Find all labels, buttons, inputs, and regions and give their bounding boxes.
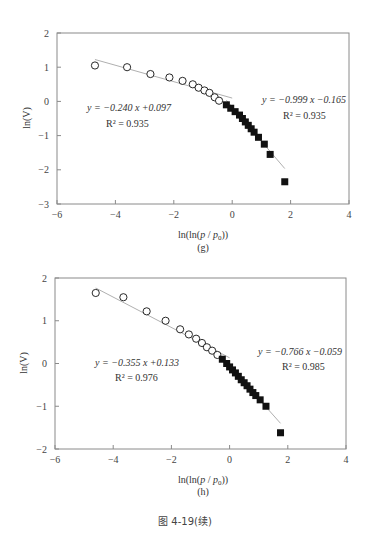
figure-caption: 图 4-19(续) <box>158 515 212 527</box>
open-circle-marker <box>215 97 222 104</box>
x-tick-label: −6 <box>52 209 63 220</box>
open-circle-marker <box>147 70 154 77</box>
open-circle-marker <box>123 64 130 71</box>
y-axis-title-h: ln(V) <box>18 352 30 374</box>
filled-square-marker <box>267 151 274 158</box>
y-tick-label: −3 <box>38 199 49 210</box>
x-tick-label: 2 <box>285 454 290 465</box>
panel-label-g: (g) <box>197 242 209 254</box>
x-tick-label: 0 <box>230 209 235 220</box>
r2-left-h: R² = 0.976 <box>115 372 158 383</box>
open-circle-marker <box>120 294 127 301</box>
fit-equation-right-g: y = −0.999 x −0.165 <box>261 94 346 105</box>
y-tick-label: 1 <box>42 315 47 326</box>
open-circle-marker <box>166 74 173 81</box>
x-tick-label: 4 <box>347 209 352 220</box>
filled-square-marker <box>257 396 264 403</box>
filled-square-marker <box>261 141 268 148</box>
chart-g: −6−4−2024210−1−2−3 ln(V) ln(ln(p / p0)) … <box>21 28 352 255</box>
fit-equation-left-g: y = −0.240 x +0.097 <box>86 102 172 113</box>
open-circle-marker <box>179 77 186 84</box>
x-tick-label: 0 <box>227 454 232 465</box>
open-circle-marker <box>177 326 184 333</box>
y-axis-title-g: ln(V) <box>21 107 33 129</box>
x-tick-label: 4 <box>344 454 349 465</box>
r2-left-g: R² = 0.935 <box>106 118 149 129</box>
y-tick-label: −2 <box>36 444 47 455</box>
x-axis-title-g: ln(ln(p / p0)) <box>178 229 228 242</box>
fit-lines-g <box>95 60 285 169</box>
filled-square-marker <box>262 403 269 410</box>
x-tick-label: 2 <box>288 209 293 220</box>
open-circle-marker <box>143 308 150 315</box>
y-tick-label: −1 <box>38 130 49 141</box>
r2-right-g: R² = 0.935 <box>283 110 326 121</box>
fit-equation-left-h: y = −0.355 x +0.133 <box>94 357 179 368</box>
filled-square-marker <box>281 178 288 185</box>
x-tick-label: −2 <box>168 209 179 220</box>
open-circle-marker <box>185 331 192 338</box>
x-tick-label: −4 <box>110 209 121 220</box>
x-tick-label: −6 <box>50 454 61 465</box>
filled-square-marker <box>277 429 284 436</box>
x-tick-label: −2 <box>166 454 177 465</box>
fit-equation-right-h: y = −0.766 x −0.059 <box>257 346 342 357</box>
r2-right-h: R² = 0.985 <box>282 361 325 372</box>
axis-ticks-g: −6−4−2024210−1−2−3 <box>38 28 351 221</box>
open-circle-marker <box>91 62 98 69</box>
fit-lines-h <box>96 288 281 423</box>
open-circle-marker <box>162 317 169 324</box>
y-tick-label: 0 <box>42 358 47 369</box>
y-tick-label: 2 <box>42 273 47 284</box>
y-tick-label: 1 <box>44 62 49 73</box>
y-tick-label: 2 <box>44 28 49 39</box>
filled-square-marker <box>255 134 262 141</box>
y-tick-label: −2 <box>38 164 49 175</box>
panel-label-h: (h) <box>197 486 209 498</box>
y-tick-label: 0 <box>44 96 49 107</box>
y-tick-label: −1 <box>36 401 47 412</box>
open-circle-marker <box>92 289 99 296</box>
figure: −6−4−2024210−1−2−3 ln(V) ln(ln(p / p0)) … <box>0 0 371 538</box>
x-tick-label: −4 <box>108 454 119 465</box>
chart-h: −6−4−2024210−1−2 ln(V) ln(ln(p / p0)) (h… <box>18 273 349 499</box>
